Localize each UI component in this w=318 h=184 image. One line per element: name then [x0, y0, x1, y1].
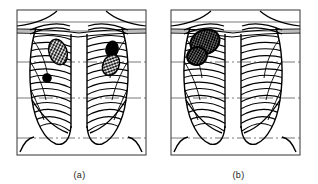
panel-a-lesions: [43, 37, 123, 82]
panel-b: (b): [159, 0, 318, 184]
panel-a: (a): [0, 0, 159, 184]
panel-b-reference-lines: [171, 22, 300, 138]
panel-b-diaphragm: [174, 137, 296, 152]
panel-b-drawing: [159, 0, 318, 184]
chest-radiograph-figure: (a): [0, 0, 318, 184]
panel-a-drawing: [0, 0, 159, 184]
panel-b-caption: (b): [159, 171, 318, 180]
lesion-solid-nodule-right-mid: [43, 74, 51, 82]
panel-a-reference-lines: [17, 22, 146, 138]
panel-b-ribs-left: [239, 36, 292, 132]
panel-b-lung-left: [241, 28, 282, 144]
panel-a-caption: (a): [0, 171, 159, 180]
panel-a-diaphragm: [20, 137, 142, 152]
